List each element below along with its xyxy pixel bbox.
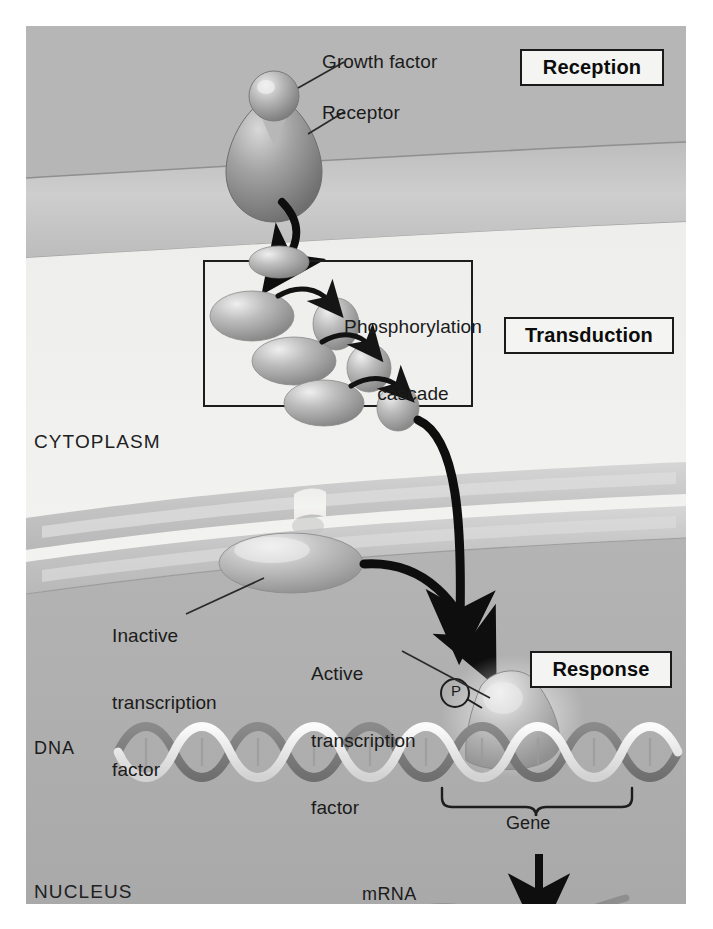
callout-inactive-tf-line2: transcription xyxy=(112,692,217,714)
callout-inactive-tf-line3: factor xyxy=(112,759,217,781)
structure-label-dna: DNA xyxy=(34,738,75,759)
stage-box-transduction-label: Transduction xyxy=(525,324,653,347)
callout-inactive-transcription-factor: Inactive transcription factor xyxy=(112,580,217,826)
stage-box-response[interactable]: Response xyxy=(530,651,672,688)
growth-factor-shape xyxy=(249,71,299,121)
callout-receptor: Receptor xyxy=(322,102,400,124)
diagram-canvas: Reception Transduction Response Growth f… xyxy=(0,0,713,929)
callout-growth-factor: Growth factor xyxy=(322,51,437,73)
callout-active-tf-line3: factor xyxy=(311,797,416,819)
stage-box-reception-label: Reception xyxy=(543,56,641,79)
callout-phosphorylation-cascade: Phosphorylation cascade xyxy=(329,271,497,450)
compartment-label-nucleus: NUCLEUS xyxy=(34,881,133,903)
cell-signaling-figure: Reception Transduction Response Growth f… xyxy=(26,26,686,904)
stage-box-reception[interactable]: Reception xyxy=(520,49,664,86)
stage-box-transduction[interactable]: Transduction xyxy=(504,317,674,354)
callout-active-transcription-factor: Active transcription factor xyxy=(311,618,416,864)
kinase-relay-0 xyxy=(249,246,309,278)
stage-box-response-label: Response xyxy=(552,658,649,681)
kinase-inactive-1 xyxy=(210,291,294,341)
callout-active-tf-line2: transcription xyxy=(311,730,416,752)
callout-phosphorylation-cascade-line2: cascade xyxy=(329,383,497,405)
structure-label-gene: Gene xyxy=(506,813,550,834)
callout-phosphorylation-cascade-line1: Phosphorylation xyxy=(329,316,497,338)
callout-inactive-tf-line1: Inactive xyxy=(112,625,217,647)
structure-label-mrna: mRNA xyxy=(362,884,417,904)
structure-label-phosphate: P xyxy=(450,682,462,700)
compartment-label-cytoplasm: CYTOPLASM xyxy=(34,431,161,453)
callout-active-tf-line1: Active xyxy=(311,663,416,685)
kinase-inactive-2 xyxy=(252,337,336,385)
